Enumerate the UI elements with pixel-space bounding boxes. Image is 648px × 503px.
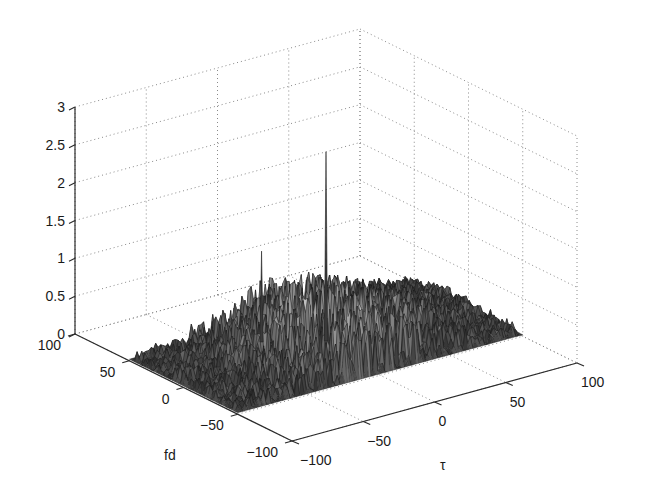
fd-tick-label: 50 <box>100 364 116 380</box>
fd-tick <box>285 441 292 443</box>
fd-tick-label: −50 <box>200 417 224 433</box>
tau-tick-label: 50 <box>510 394 526 410</box>
tau-tick <box>435 402 442 405</box>
z-tick <box>69 107 75 110</box>
x-axis-label-tau: τ <box>440 457 446 473</box>
fd-tick-label: 100 <box>38 337 62 353</box>
z-tick-label: 1.5 <box>46 213 66 229</box>
z-tick-label: 2 <box>57 175 65 191</box>
main-peak <box>324 152 327 341</box>
z-tick <box>69 258 75 261</box>
fd-tick <box>177 388 184 390</box>
surface-plot: 00.511.522.53−100−50050100−100−50050100 … <box>0 0 648 503</box>
grid-line-z <box>75 29 360 107</box>
fd-tick <box>231 414 238 416</box>
z-tick <box>69 183 75 186</box>
tau-tick-label: −100 <box>300 452 332 468</box>
tau-tick-label: 0 <box>439 413 447 429</box>
tau-tick-label: −50 <box>367 433 391 449</box>
z-tick-label: 0.5 <box>46 288 66 304</box>
z-tick <box>69 296 75 299</box>
z-tick <box>69 221 75 224</box>
tau-tick-label: 100 <box>581 374 605 390</box>
tau-tick <box>506 383 513 386</box>
z-tick-label: 3 <box>57 99 65 115</box>
y-axis-label-fd: fd <box>164 447 176 463</box>
z-tick-label: 1 <box>57 250 65 266</box>
tau-tick <box>577 363 584 366</box>
fd-tick-label: 0 <box>162 391 170 407</box>
tau-tick <box>292 441 299 444</box>
fd-tick-label: −100 <box>246 444 278 460</box>
tau-tick <box>363 422 370 425</box>
z-tick <box>69 145 75 148</box>
fd-tick <box>122 361 129 363</box>
surface-mesh <box>129 152 523 413</box>
z-tick-label: 2.5 <box>46 137 66 153</box>
